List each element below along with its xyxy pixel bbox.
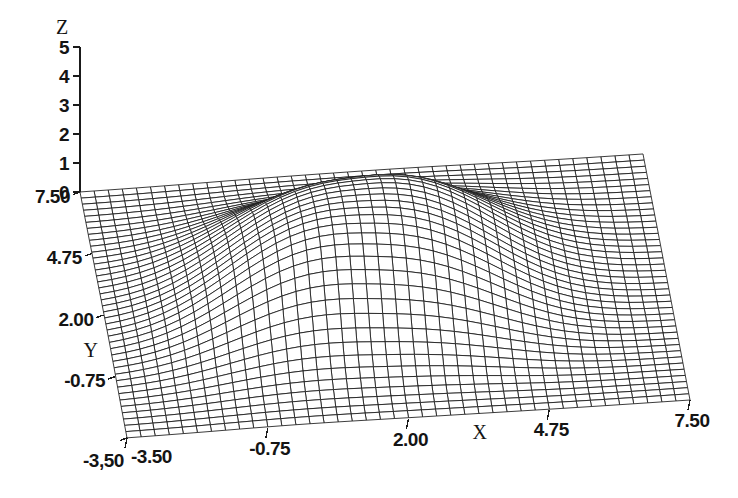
y-axis-tick-7-50: 7.50 xyxy=(35,187,70,206)
surface-plot-figure: Z 5 4 3 2 1 0 7.50 4.75 2.00 Y -0.75 -3,… xyxy=(0,0,738,498)
wireframe-mesh xyxy=(80,154,690,438)
x-axis-tick-7-50: 7.50 xyxy=(675,411,710,430)
x-axis-title: X xyxy=(473,422,487,442)
y-axis-title: Y xyxy=(83,340,97,360)
y-axis-tick-2-00: 2.00 xyxy=(59,310,94,329)
z-axis-tick-3: 3 xyxy=(59,96,69,115)
z-axis-tick-5: 5 xyxy=(59,38,69,57)
z-axis-tick-4: 4 xyxy=(59,67,69,86)
x-axis-tick-neg-0-75: -0.75 xyxy=(249,439,290,458)
y-axis-tick-neg-0-75: -0.75 xyxy=(64,371,105,390)
x-axis-tick-4-75: 4.75 xyxy=(534,420,569,439)
x-axis-tick-2-00: 2.00 xyxy=(393,430,428,449)
y-axis-tick-neg-3-50: -3,50 xyxy=(83,451,124,470)
z-axis-tick-1: 1 xyxy=(59,154,69,173)
z-axis-title: Z xyxy=(56,17,68,37)
x-axis-tick-neg-3-50: -3.50 xyxy=(131,447,172,466)
y-axis-tick-4-75: 4.75 xyxy=(47,248,82,267)
z-axis-tick-2: 2 xyxy=(59,125,69,144)
surface-plot-canvas xyxy=(0,0,738,498)
